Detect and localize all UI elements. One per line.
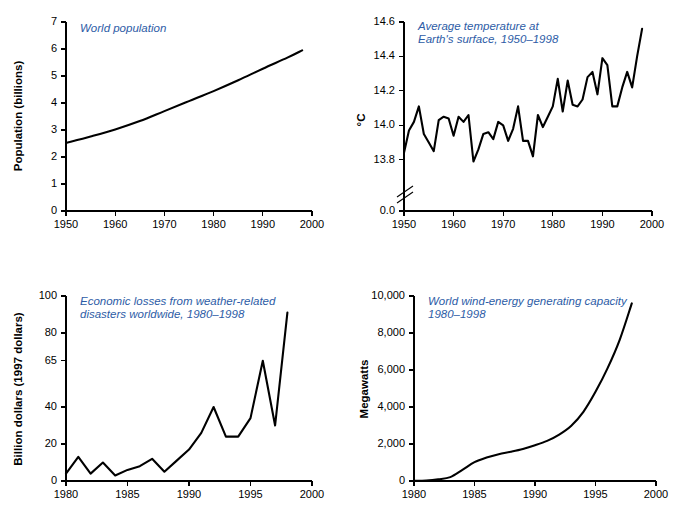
chart-panel-losses: 02040658010019801985199019952000Billion … — [0, 263, 343, 526]
x-tick-label: 1980 — [54, 488, 78, 500]
y-tick-label: 100 — [39, 289, 57, 301]
y-tick-label: 80 — [45, 326, 57, 338]
y-tick-label: 14.0 — [374, 118, 395, 130]
x-tick-label: 1970 — [491, 218, 515, 230]
x-tick-label: 1980 — [201, 218, 225, 230]
y-tick-label: 0 — [51, 474, 57, 486]
x-tick-label: 1995 — [238, 488, 262, 500]
y-axis-title: °C — [355, 114, 367, 127]
chart-svg-temperature: 13.814.014.214.414.60.019501960197019801… — [342, 0, 685, 263]
x-tick-label: 1980 — [402, 488, 426, 500]
y-tick-label: 6,000 — [377, 363, 405, 375]
y-tick-label: 10,000 — [371, 289, 405, 301]
x-tick-label: 1970 — [152, 218, 176, 230]
chart-panel-temperature: 13.814.014.214.414.60.019501960197019801… — [342, 0, 685, 263]
y-axis-title: Billion dollars (1997 dollars) — [12, 312, 24, 466]
chart-title-line: World wind-energy generating capacity — [428, 295, 628, 307]
y-tick-label: 6 — [51, 42, 57, 54]
chart-panel-wind: 02,0004,0006,0008,00010,0001980198519901… — [342, 263, 685, 526]
chart-title-line: 1980–1998 — [428, 308, 486, 320]
y-tick-label: 14.4 — [374, 49, 395, 61]
x-tick-label: 1960 — [441, 218, 465, 230]
y-tick-label: 14.2 — [374, 84, 395, 96]
y-tick-label: 3 — [51, 123, 57, 135]
x-tick-label: 2000 — [300, 488, 324, 500]
y-tick-label: 65 — [45, 354, 57, 366]
x-tick-label: 1985 — [115, 488, 139, 500]
y-tick-label: 8,000 — [377, 326, 405, 338]
x-tick-label: 1950 — [392, 218, 416, 230]
y-tick-label: 4,000 — [377, 400, 405, 412]
chart-title-line: World population — [80, 22, 166, 34]
x-tick-label: 1995 — [583, 488, 607, 500]
y-tick-label: 5 — [51, 69, 57, 81]
x-tick-label: 1990 — [177, 488, 201, 500]
y-tick-label: 4 — [51, 96, 57, 108]
y-tick-label: 0 — [399, 474, 405, 486]
x-tick-label: 1990 — [523, 488, 547, 500]
x-tick-label: 2000 — [644, 488, 668, 500]
chart-svg-population: 01234567195019601970198019902000Populati… — [0, 0, 343, 263]
chart-title-line: Average temperature at — [417, 20, 539, 32]
y-tick-label: 7 — [51, 15, 57, 27]
chart-title-line: Earth's surface, 1950–1998 — [418, 33, 559, 45]
data-series-line — [66, 50, 302, 143]
x-tick-label: 1990 — [251, 218, 275, 230]
x-tick-label: 1960 — [103, 218, 127, 230]
data-series-line — [414, 303, 632, 480]
y-tick-label: 1 — [51, 177, 57, 189]
data-series-line — [404, 29, 642, 162]
chart-panel-population: 01234567195019601970198019902000Populati… — [0, 0, 343, 263]
chart-svg-wind: 02,0004,0006,0008,00010,0001980198519901… — [342, 263, 685, 526]
y-tick-label: 0 — [51, 204, 57, 216]
y-axis-title: Population (billions) — [12, 61, 24, 172]
x-tick-label: 1980 — [541, 218, 565, 230]
y-tick-label: 2,000 — [377, 437, 405, 449]
y-axis-title: Megawatts — [358, 360, 370, 419]
y-tick-label: 2 — [51, 150, 57, 162]
x-tick-label: 2000 — [300, 218, 324, 230]
x-tick-label: 1985 — [462, 488, 486, 500]
y-tick-label: 14.6 — [374, 15, 395, 27]
chart-title-line: Economic losses from weather-related — [80, 295, 276, 307]
x-tick-label: 1990 — [590, 218, 614, 230]
y-tick-label: 40 — [45, 400, 57, 412]
x-tick-label: 2000 — [640, 218, 664, 230]
y-tick-label: 13.8 — [374, 153, 395, 165]
chart-svg-losses: 02040658010019801985199019952000Billion … — [0, 263, 343, 526]
y-tick-label: 20 — [45, 437, 57, 449]
data-series-line — [66, 313, 287, 476]
x-tick-label: 1950 — [54, 218, 78, 230]
chart-title-line: disasters worldwide, 1980–1998 — [80, 308, 245, 320]
four-panel-environmental-figure: 01234567195019601970198019902000Populati… — [0, 0, 685, 526]
y-tick-label-zero: 0.0 — [380, 204, 395, 216]
